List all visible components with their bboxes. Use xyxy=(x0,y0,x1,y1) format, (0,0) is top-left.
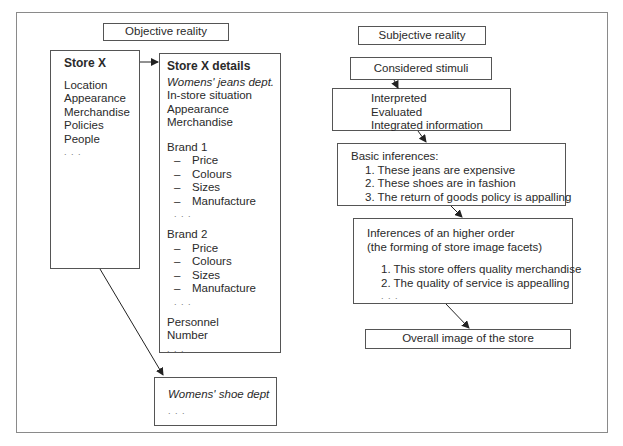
arrow-storex-to-shoe xyxy=(100,269,163,375)
arrow-basic-to-higher xyxy=(451,206,462,217)
arrow-higher-to-overall xyxy=(446,304,469,328)
connector-arrows xyxy=(0,0,623,446)
arrow-considered-to-processing xyxy=(394,80,398,88)
arrow-processing-to-basic xyxy=(418,131,426,142)
